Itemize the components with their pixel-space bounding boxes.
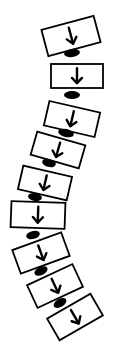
vertebra-block (47, 294, 103, 341)
spine-diagram (0, 0, 113, 356)
intervertebral-disc (25, 229, 41, 240)
vertebra-block (51, 64, 103, 88)
vertebra-block (11, 201, 66, 229)
vertebra-block (18, 166, 72, 201)
vertebra-block (31, 132, 86, 169)
intervertebral-disc (64, 91, 80, 99)
